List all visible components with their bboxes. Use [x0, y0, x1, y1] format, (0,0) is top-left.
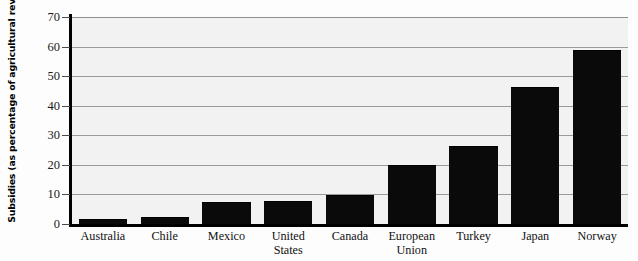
bar-australia	[79, 219, 127, 224]
gridline-60	[72, 47, 628, 48]
y-axis-title-text: Subsidies (as percentage of agricultural…	[6, 13, 18, 223]
bar-european-union	[388, 165, 436, 224]
bar-norway	[573, 50, 621, 224]
y-tick-label-20: 20	[30, 165, 60, 166]
x-label-line: States	[257, 244, 319, 258]
x-label-line: Turkey	[443, 230, 505, 244]
x-label-line: Mexico	[196, 230, 258, 244]
bar-chart-figure: Subsidies (as percentage of agricultural…	[0, 0, 638, 261]
y-tick-mark-50	[62, 76, 70, 77]
y-tick-mark-30	[62, 135, 70, 136]
x-label-line: Australia	[72, 230, 134, 244]
x-label-line: United	[257, 230, 319, 244]
bar-chile	[141, 217, 189, 225]
x-label-line: Japan	[504, 230, 566, 244]
y-tick-mark-70	[62, 17, 70, 18]
x-axis-line	[69, 224, 628, 227]
bar-japan	[511, 87, 559, 224]
x-label-line: Canada	[319, 230, 381, 244]
bar-united-states	[264, 201, 312, 224]
y-tick-label-40: 40	[30, 106, 60, 107]
y-tick-label-10: 10	[30, 194, 60, 195]
y-tick-mark-40	[62, 106, 70, 107]
x-label-european-union: EuropeanUnion	[381, 230, 443, 257]
y-tick-label-30: 30	[30, 135, 60, 136]
x-label-japan: Japan	[504, 230, 566, 244]
y-tick-label-0: 0	[30, 224, 60, 225]
bar-canada	[326, 195, 374, 224]
x-label-line: Chile	[134, 230, 196, 244]
x-label-chile: Chile	[134, 230, 196, 244]
y-tick-label-50: 50	[30, 76, 60, 77]
y-tick-mark-0	[62, 224, 70, 225]
x-label-line: European	[381, 230, 443, 244]
bar-mexico	[202, 202, 250, 224]
gridline-70	[72, 17, 628, 18]
x-label-australia: Australia	[72, 230, 134, 244]
x-label-canada: Canada	[319, 230, 381, 244]
y-tick-label-70: 70	[30, 17, 60, 18]
x-label-line: Union	[381, 244, 443, 258]
x-label-mexico: Mexico	[196, 230, 258, 244]
x-label-line: Norway	[566, 230, 628, 244]
bar-turkey	[449, 146, 497, 224]
x-label-united-states: UnitedStates	[257, 230, 319, 257]
x-label-norway: Norway	[566, 230, 628, 244]
y-tick-mark-20	[62, 165, 70, 166]
y-axis-title: Subsidies (as percentage of agricultural…	[0, 0, 24, 235]
y-tick-mark-10	[62, 194, 70, 195]
plot-area	[72, 17, 628, 224]
gridline-50	[72, 76, 628, 77]
x-label-turkey: Turkey	[443, 230, 505, 244]
y-tick-label-60: 60	[30, 47, 60, 48]
y-tick-mark-60	[62, 47, 70, 48]
